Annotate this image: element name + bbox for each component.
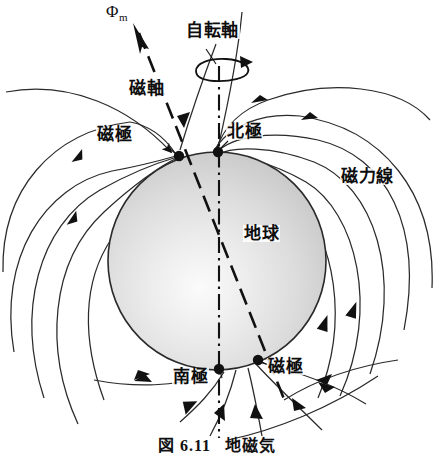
magnetic-north-pole-dot	[174, 151, 184, 161]
magnetic-pole-north-label: 磁極	[96, 126, 133, 143]
field-line-left-outer	[6, 89, 171, 152]
geographic-north-pole-dot	[213, 147, 223, 157]
geomagnetism-figure: Φm 自転軸 磁軸 磁極 北極 磁力線 地球 南極 磁極 図 6.11地磁気	[0, 0, 434, 458]
magnetic-flux-subscript: m	[119, 11, 128, 23]
earth-label: 地球	[243, 225, 280, 242]
leader-rotation-axis	[206, 49, 216, 64]
geomagnetism-diagram	[0, 0, 434, 458]
geographic-south-pole-label: 南極	[172, 368, 209, 385]
caption-title: 地磁気	[225, 437, 276, 454]
caption-prefix: 図	[158, 437, 175, 454]
rotation-direction-arrow	[196, 56, 253, 81]
field-line-bottom-3	[248, 368, 263, 436]
field-line-bottom-4	[210, 370, 236, 436]
field-line-arrow-lower-right-2	[317, 314, 335, 334]
magnetic-moment-arrow	[133, 23, 149, 54]
caption-number: 6.11	[180, 437, 211, 454]
magnetic-axis-label: 磁軸	[128, 80, 165, 97]
magnetic-south-pole-dot	[253, 355, 263, 365]
field-lines-label: 磁力線	[340, 168, 395, 185]
magnetic-pole-south-label: 磁極	[267, 358, 304, 375]
magnetic-flux-label: Φm	[105, 3, 129, 23]
geographic-south-pole-dot	[214, 364, 224, 374]
rotation-axis-label: 自転軸	[185, 22, 240, 39]
figure-caption: 図 6.11地磁気	[0, 432, 434, 456]
earth-sphere	[108, 152, 326, 370]
magnetic-flux-symbol: Φ	[106, 2, 119, 21]
geographic-north-pole-label: 北極	[226, 123, 263, 140]
